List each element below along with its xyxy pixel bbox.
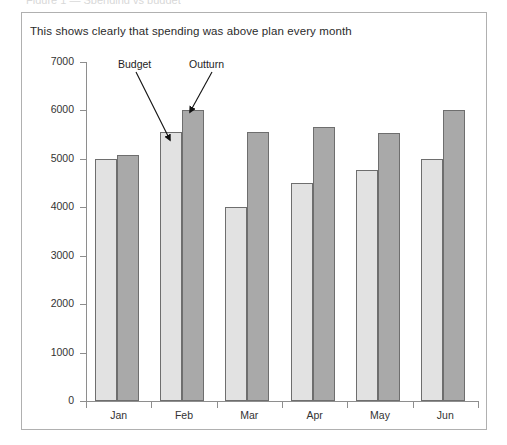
y-axis-tick: [80, 62, 87, 63]
figure-page: Figure 1 — Spending vs budget This shows…: [0, 0, 507, 445]
x-axis-label-feb: Feb: [152, 409, 216, 421]
y-axis-tick-label-wrap: 1000: [28, 353, 74, 354]
x-axis-tick-end: [478, 401, 479, 408]
y-axis-tick: [80, 207, 87, 208]
bar-chart-plot: 01000200030004000500060007000JanFebMarAp…: [0, 0, 507, 445]
bar-mar-outturn: [247, 132, 269, 401]
y-axis-tick-label: 3000: [30, 249, 74, 261]
bar-mar-budget: [225, 207, 247, 401]
y-axis-tick-label-wrap: 6000: [28, 110, 74, 111]
y-axis-tick-label-wrap: 3000: [28, 256, 74, 257]
bar-jun-budget: [421, 159, 443, 401]
x-axis-label-apr: Apr: [283, 409, 347, 421]
y-axis-tick-label-wrap: 5000: [28, 159, 74, 160]
x-axis-tick: [413, 401, 414, 408]
bar-jan-outturn: [117, 155, 139, 401]
y-axis-tick-label: 2000: [30, 297, 74, 309]
y-axis-tick-label-wrap: 7000: [28, 62, 74, 63]
y-axis-tick: [80, 256, 87, 257]
y-axis-tick-label: 7000: [30, 55, 74, 67]
bar-may-budget: [356, 170, 378, 401]
y-axis-tick-label: 5000: [30, 152, 74, 164]
x-axis-label-jan: Jan: [87, 409, 151, 421]
y-axis-tick-label-wrap: 0: [28, 401, 74, 402]
y-axis-tick: [80, 110, 87, 111]
y-axis-tick-label: 6000: [30, 103, 74, 115]
y-axis-tick-label-wrap: 4000: [28, 207, 74, 208]
x-axis-label-jun: Jun: [413, 409, 477, 421]
x-axis-tick: [217, 401, 218, 408]
x-axis-tick: [282, 401, 283, 408]
y-axis-tick-label-wrap: 2000: [28, 304, 74, 305]
bar-may-outturn: [378, 133, 400, 401]
y-axis-tick: [80, 304, 87, 305]
annotation-label-budget: Budget: [118, 58, 151, 70]
bar-jan-budget: [95, 159, 117, 401]
y-axis-tick-label: 4000: [30, 200, 74, 212]
y-axis-tick: [80, 353, 87, 354]
y-axis-tick-label: 0: [30, 394, 74, 406]
bar-apr-outturn: [313, 127, 335, 401]
annotation-label-outturn: Outturn: [189, 58, 224, 70]
x-axis-tick: [86, 401, 87, 408]
y-axis-tick: [80, 159, 87, 160]
bar-feb-outturn: [182, 110, 204, 401]
x-axis-label-may: May: [348, 409, 412, 421]
bar-jun-outturn: [443, 110, 465, 401]
x-axis-tick: [347, 401, 348, 408]
y-axis-tick-label: 1000: [30, 346, 74, 358]
x-axis-tick: [151, 401, 152, 408]
y-axis-line: [86, 62, 87, 402]
bar-apr-budget: [291, 183, 313, 401]
bar-feb-budget: [160, 132, 182, 401]
x-axis-label-mar: Mar: [217, 409, 281, 421]
